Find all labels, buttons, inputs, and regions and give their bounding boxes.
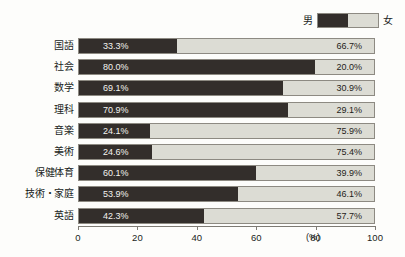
stacked-bar-chart: 男 女 国語33.3%66.7%社会80.0%20.0%数学69.1%30.9%… bbox=[0, 0, 405, 257]
bar-value-male: 70.9% bbox=[103, 103, 129, 117]
bar-value-male: 24.6% bbox=[103, 145, 129, 159]
stacked-bar: 69.1%30.9% bbox=[78, 80, 375, 96]
category-label: 国語 bbox=[0, 38, 74, 54]
stacked-bar: 24.6%75.4% bbox=[78, 144, 375, 160]
bar-segment-male: 60.1% bbox=[79, 166, 256, 180]
stacked-bar: 70.9%29.1% bbox=[78, 102, 375, 118]
stacked-bar: 42.3%57.7% bbox=[78, 208, 375, 224]
stacked-bar: 60.1%39.9% bbox=[78, 165, 375, 181]
legend-label-female: 女 bbox=[383, 16, 393, 26]
x-axis-tick bbox=[316, 226, 317, 230]
bar-value-female: 46.1% bbox=[336, 187, 362, 201]
bar-value-male: 60.1% bbox=[103, 166, 129, 180]
bar-value-female: 66.7% bbox=[336, 39, 362, 53]
x-axis-tick bbox=[256, 226, 257, 230]
x-axis-tick-label: 40 bbox=[192, 232, 203, 243]
chart-row: 美術24.6%75.4% bbox=[0, 144, 405, 160]
bar-value-male: 42.3% bbox=[103, 209, 129, 223]
chart-row: 数学69.1%30.9% bbox=[0, 80, 405, 96]
x-axis-unit-label: (%) bbox=[306, 232, 320, 242]
bar-value-female: 75.4% bbox=[336, 145, 362, 159]
x-axis-tick-label: 60 bbox=[251, 232, 262, 243]
bar-segment-female: 57.7% bbox=[204, 209, 374, 223]
bar-value-male: 33.3% bbox=[103, 39, 129, 53]
chart-row: 理科70.9%29.1% bbox=[0, 102, 405, 118]
category-label: 音楽 bbox=[0, 123, 74, 139]
bar-segment-female: 29.1% bbox=[288, 103, 374, 117]
bar-segment-female: 20.0% bbox=[315, 60, 374, 74]
x-axis-tick-label: 0 bbox=[75, 232, 80, 243]
bar-segment-female: 75.9% bbox=[150, 124, 374, 138]
x-axis-tick-label: 20 bbox=[132, 232, 143, 243]
category-label: 技術・家庭 bbox=[0, 186, 74, 202]
bar-segment-male: 53.9% bbox=[79, 187, 238, 201]
bar-segment-male: 70.9% bbox=[79, 103, 288, 117]
stacked-bar: 53.9%46.1% bbox=[78, 186, 375, 202]
category-label: 保健体育 bbox=[0, 165, 74, 181]
bar-segment-female: 30.9% bbox=[283, 81, 374, 95]
bar-value-female: 75.9% bbox=[336, 124, 362, 138]
x-axis-tick bbox=[78, 226, 79, 230]
plot-area: 国語33.3%66.7%社会80.0%20.0%数学69.1%30.9%理科70… bbox=[0, 36, 405, 226]
chart-row: 保健体育60.1%39.9% bbox=[0, 165, 405, 181]
bar-segment-male: 69.1% bbox=[79, 81, 283, 95]
legend-swatch-female bbox=[348, 14, 378, 27]
x-axis: 020406080100 bbox=[78, 226, 375, 252]
bar-segment-female: 46.1% bbox=[238, 187, 374, 201]
bar-segment-male: 42.3% bbox=[79, 209, 204, 223]
legend-label-male: 男 bbox=[303, 16, 313, 26]
bar-value-male: 69.1% bbox=[103, 81, 129, 95]
bar-value-female: 57.7% bbox=[336, 209, 362, 223]
bar-value-male: 24.1% bbox=[103, 124, 129, 138]
x-axis-line bbox=[78, 226, 375, 227]
chart-legend: 男 女 bbox=[303, 11, 393, 30]
stacked-bar: 33.3%66.7% bbox=[78, 38, 375, 54]
stacked-bar: 24.1%75.9% bbox=[78, 123, 375, 139]
legend-swatch-male bbox=[318, 14, 348, 27]
x-axis-tick bbox=[137, 226, 138, 230]
bar-value-male: 53.9% bbox=[103, 187, 129, 201]
chart-row: 技術・家庭53.9%46.1% bbox=[0, 186, 405, 202]
bar-segment-male: 80.0% bbox=[79, 60, 315, 74]
x-axis-tick bbox=[375, 226, 376, 230]
stacked-bar: 80.0%20.0% bbox=[78, 59, 375, 75]
legend-swatch-group bbox=[317, 13, 379, 28]
category-label: 数学 bbox=[0, 80, 74, 96]
category-label: 理科 bbox=[0, 102, 74, 118]
bar-value-female: 30.9% bbox=[336, 81, 362, 95]
x-axis-tick-label: 100 bbox=[367, 232, 383, 243]
chart-row: 英語42.3%57.7% bbox=[0, 208, 405, 224]
chart-row: 社会80.0%20.0% bbox=[0, 59, 405, 75]
chart-row: 音楽24.1%75.9% bbox=[0, 123, 405, 139]
bar-segment-female: 66.7% bbox=[177, 39, 374, 53]
bar-segment-male: 24.6% bbox=[79, 145, 152, 159]
bar-value-male: 80.0% bbox=[103, 60, 129, 74]
bar-value-female: 29.1% bbox=[336, 103, 362, 117]
bar-segment-female: 39.9% bbox=[256, 166, 374, 180]
bar-segment-male: 33.3% bbox=[79, 39, 177, 53]
category-label: 社会 bbox=[0, 59, 74, 75]
category-label: 美術 bbox=[0, 144, 74, 160]
x-axis-tick bbox=[197, 226, 198, 230]
bar-segment-male: 24.1% bbox=[79, 124, 150, 138]
bar-segment-female: 75.4% bbox=[152, 145, 374, 159]
bar-value-female: 39.9% bbox=[336, 166, 362, 180]
bar-value-female: 20.0% bbox=[336, 60, 362, 74]
category-label: 英語 bbox=[0, 208, 74, 224]
chart-row: 国語33.3%66.7% bbox=[0, 38, 405, 54]
